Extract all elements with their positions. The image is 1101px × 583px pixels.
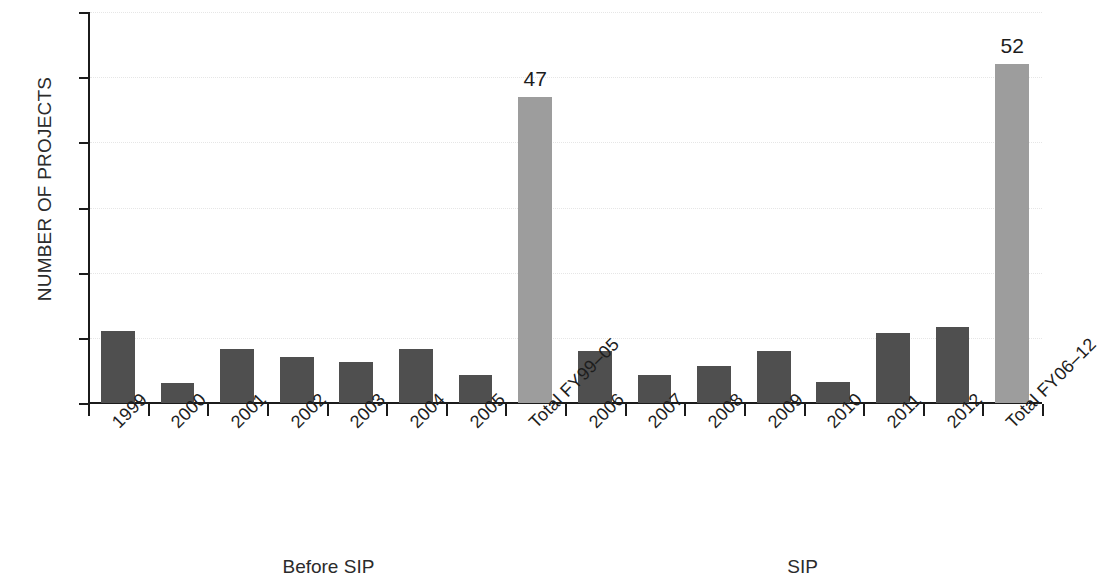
group-label: SIP (787, 556, 818, 578)
bar-total-fy06-12 (995, 64, 1029, 403)
bar-series: 4752 (88, 12, 1042, 403)
bar-2011 (876, 333, 910, 403)
y-axis-title: NUMBER OF PROJECTS (34, 49, 56, 329)
bar-value-label: 52 (982, 34, 1042, 58)
bar-value-label: 47 (505, 67, 565, 91)
y-axis-tick (79, 338, 88, 340)
y-axis-tick (79, 273, 88, 275)
y-axis-tick (79, 12, 88, 14)
plot-area: 0102030405060 4752 (88, 12, 1042, 403)
y-axis-tick (79, 403, 88, 405)
y-axis-tick (79, 77, 88, 79)
y-axis-tick (79, 142, 88, 144)
bar-1999 (101, 331, 135, 403)
x-axis-tick (88, 404, 90, 416)
bar-total-fy99-05 (518, 97, 552, 403)
bar-2012 (936, 327, 970, 403)
group-label: Before SIP (282, 556, 374, 578)
y-axis-tick (79, 208, 88, 210)
